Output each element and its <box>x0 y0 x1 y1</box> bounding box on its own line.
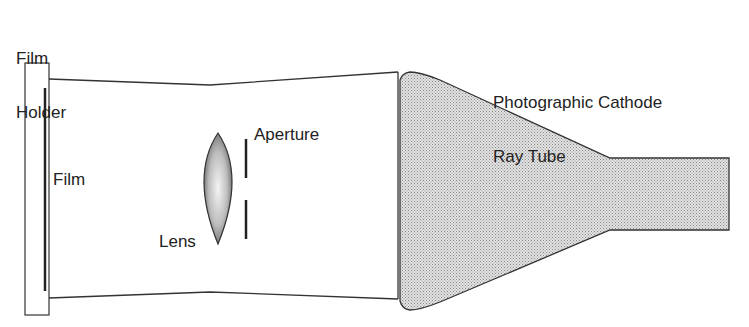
crt-label-line2: Ray Tube <box>493 148 662 166</box>
film-holder-label-line2: Holder <box>16 104 66 122</box>
aperture-label: Aperture <box>254 126 319 144</box>
lens-label: Lens <box>159 233 196 251</box>
crt-label-line1: Photographic Cathode <box>493 94 662 112</box>
crt-label: Photographic Cathode Ray Tube <box>493 58 662 184</box>
film-holder-label-line1: Film <box>16 50 66 68</box>
film-label: Film <box>53 171 85 189</box>
lens-shape <box>204 133 232 244</box>
film-holder-label: Film Holder <box>16 14 66 140</box>
